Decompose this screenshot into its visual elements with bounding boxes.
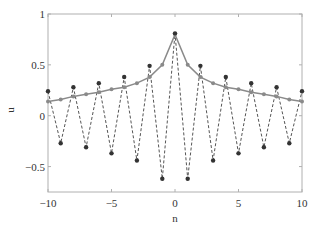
envelope-marker — [59, 97, 63, 101]
envelope-marker — [198, 75, 202, 79]
series-marker — [274, 85, 278, 89]
envelope-line — [48, 34, 302, 101]
x-tick-label: 5 — [236, 197, 242, 209]
envelope-marker — [122, 85, 126, 89]
series-marker — [173, 31, 177, 35]
series-marker — [59, 141, 63, 145]
envelope-marker — [211, 81, 215, 85]
y-tick-label: −0.5 — [25, 161, 45, 173]
envelope-marker — [84, 92, 88, 96]
y-axis-label: u — [4, 107, 16, 113]
series-marker — [97, 81, 101, 85]
axes-box — [48, 14, 302, 192]
series-marker — [186, 177, 190, 181]
envelope-marker — [224, 85, 228, 89]
x-tick-label: −5 — [106, 197, 118, 209]
series-marker — [300, 89, 304, 93]
series-marker — [84, 145, 88, 149]
x-tick-label: −10 — [39, 197, 57, 209]
series-marker — [249, 81, 253, 85]
series-marker — [160, 177, 164, 181]
envelope-marker — [237, 87, 241, 91]
y-tick-label: 1 — [40, 8, 46, 20]
series-marker — [147, 64, 151, 68]
series-marker — [71, 85, 75, 89]
x-tick-label: 10 — [297, 197, 309, 209]
envelope-marker — [135, 81, 139, 85]
envelope-marker — [46, 99, 50, 103]
x-tick-label: 0 — [172, 197, 178, 209]
envelope-marker — [160, 63, 164, 67]
chart: −10−5051010.50−0.5 n u — [0, 0, 322, 232]
envelope-marker — [287, 97, 291, 101]
x-axis-label: n — [172, 212, 178, 224]
series-marker — [109, 151, 113, 155]
y-tick-label: 0.5 — [31, 59, 45, 71]
series-marker — [262, 145, 266, 149]
series-marker — [46, 89, 50, 93]
envelope-marker — [186, 63, 190, 67]
series-marker — [236, 151, 240, 155]
envelope-marker — [300, 99, 304, 103]
envelope-marker — [262, 92, 266, 96]
envelope-marker — [249, 90, 253, 94]
envelope-marker — [148, 75, 152, 79]
y-tick-label: 0 — [40, 110, 46, 122]
envelope-marker — [97, 90, 101, 94]
series-marker — [122, 75, 126, 79]
envelope-marker — [110, 87, 114, 91]
plot-area — [46, 31, 304, 181]
series-marker — [198, 64, 202, 68]
axes-frame — [48, 14, 302, 192]
dashed-series-line — [48, 33, 302, 178]
series-marker — [287, 141, 291, 145]
series-marker — [224, 75, 228, 79]
ticks: −10−5051010.50−0.5 — [25, 8, 308, 209]
envelope-marker — [275, 94, 279, 98]
envelope-marker — [71, 94, 75, 98]
series-marker — [135, 158, 139, 162]
series-marker — [211, 158, 215, 162]
